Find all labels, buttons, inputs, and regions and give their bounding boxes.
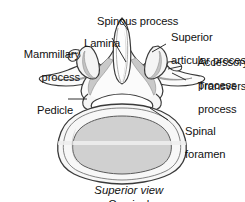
label-spinal-foramen: Spinal foramen: [173, 114, 225, 172]
caption-region: Cervical: [0, 186, 245, 202]
label-spinal-foramen-line1: Spinal: [185, 125, 216, 137]
label-pedicle: Pedicle: [25, 93, 73, 128]
label-mammillary-process: Mammillary process: [2, 37, 80, 95]
vertebral-body-highlight: [58, 141, 188, 145]
label-mammillary-process-line2: process: [42, 71, 80, 83]
label-accessory-process-line1: Accessory: [197, 56, 245, 68]
label-transverse-process-line1: Transverse: [198, 80, 245, 92]
label-spinal-foramen-line2: foramen: [185, 148, 225, 160]
label-superior-articular-line1: Superior: [171, 31, 213, 43]
vertebra-diagram: Mammillary process Lamina Spinous proces…: [0, 0, 245, 202]
label-pedicle-text: Pedicle: [37, 104, 73, 116]
caption-region-text: Cervical: [108, 198, 149, 202]
label-transverse-process-line2: process: [198, 103, 236, 115]
